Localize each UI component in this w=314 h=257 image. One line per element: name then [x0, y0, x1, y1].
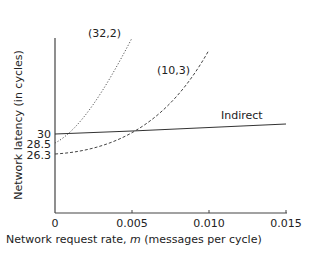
series-indirect-line — [55, 124, 286, 134]
y-axis-title: Network latency (in cycles) — [12, 50, 25, 200]
label-32-2: (32,2) — [88, 27, 121, 40]
latency-chart: 0 0.005 0.010 0.015 30 28.5 26.3 Network… — [0, 0, 314, 257]
x-tick-label: 0.010 — [193, 217, 225, 230]
x-tick-label: 0.005 — [116, 217, 148, 230]
label-indirect: Indirect — [221, 109, 263, 122]
y-tick-label: 26.3 — [27, 149, 52, 162]
label-10-3: (10,3) — [157, 64, 190, 77]
series-32-2-line — [55, 38, 132, 143]
x-axis-title: Network request rate, m (messages per cy… — [6, 233, 262, 246]
x-tick-label: 0 — [52, 217, 59, 230]
x-tick-label: 0.015 — [270, 217, 302, 230]
